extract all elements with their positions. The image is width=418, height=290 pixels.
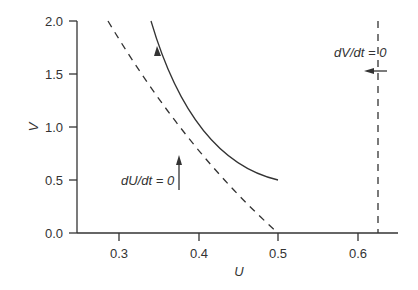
du-dt-annotation-text: dU/dt = 0	[121, 173, 175, 188]
y-tick-label: 1.0	[45, 120, 63, 135]
x-tick-label: 0.4	[190, 246, 208, 261]
left-arrow-icon	[364, 68, 387, 74]
x-tick-label: 0.6	[349, 246, 367, 261]
y-tick-label: 0.0	[45, 226, 63, 241]
dv-dt-annotation-text: dV/dt = 0	[334, 45, 387, 60]
x-tick-labels: 0.3 0.4 0.5 0.6	[110, 246, 367, 261]
y-tick-label: 2.0	[45, 14, 63, 29]
y-tick-labels: 2.0 1.5 1.0 0.5 0.0	[45, 14, 63, 241]
du-dt-nullcline	[108, 21, 278, 233]
y-tick-label: 1.5	[45, 67, 63, 82]
y-tick-label: 0.5	[45, 173, 63, 188]
dv-dt-annotation: dV/dt = 0	[334, 45, 387, 60]
trajectory-curve	[151, 21, 278, 180]
phase-plane-chart: 2.0 1.5 1.0 0.5 0.0 0.3 0.4 0.5 0.6 U V …	[0, 0, 418, 290]
y-axis-label: V	[26, 121, 41, 131]
du-dt-annotation: dU/dt = 0	[121, 173, 175, 188]
x-tick-label: 0.5	[269, 246, 287, 261]
x-axis-label: U	[234, 264, 244, 279]
y-ticks	[69, 21, 77, 233]
x-ticks	[119, 233, 358, 241]
x-tick-label: 0.3	[110, 246, 128, 261]
up-arrow-icon	[176, 155, 182, 190]
